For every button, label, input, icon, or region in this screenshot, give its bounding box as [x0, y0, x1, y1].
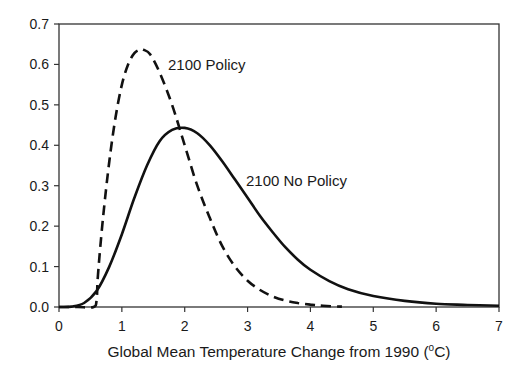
y-tick-label: 0.0 — [30, 299, 50, 315]
y-axis-ticks: 0.00.10.20.30.40.50.60.7 — [30, 16, 59, 315]
y-tick-label: 0.2 — [30, 218, 50, 234]
x-tick-label: 7 — [495, 318, 503, 334]
no-policy-annotation: 2100 No Policy — [246, 172, 347, 189]
y-tick-label: 0.3 — [30, 178, 50, 194]
x-tick-label: 4 — [307, 318, 315, 334]
policy-annotation: 2100 Policy — [168, 56, 246, 73]
y-tick-label: 0.7 — [30, 16, 50, 32]
x-tick-label: 0 — [55, 318, 63, 334]
x-tick-label: 2 — [181, 318, 189, 334]
x-tick-label: 1 — [118, 318, 126, 334]
x-tick-label: 5 — [369, 318, 377, 334]
y-tick-label: 0.1 — [30, 259, 50, 275]
x-axis-title: Global Mean Temperature Change from 1990… — [107, 342, 450, 360]
y-tick-label: 0.6 — [30, 56, 50, 72]
no-policy-curve — [59, 128, 499, 307]
y-tick-label: 0.5 — [30, 97, 50, 113]
x-tick-label: 3 — [244, 318, 252, 334]
x-axis-ticks: 01234567 — [55, 307, 503, 334]
chart-canvas: 0.00.10.20.30.40.50.60.7 01234567 2100 P… — [0, 0, 529, 377]
y-tick-label: 0.4 — [30, 137, 50, 153]
plot-frame — [59, 24, 499, 307]
x-tick-label: 6 — [432, 318, 440, 334]
